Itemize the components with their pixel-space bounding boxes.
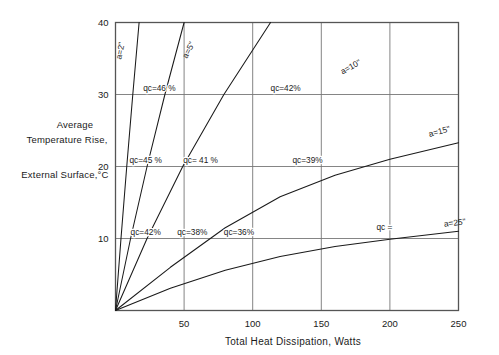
y-axis-label-line-2: Temperature Rise, [14,134,120,145]
x-tick-label-100: 100 [245,318,261,329]
x-tick-label-150: 150 [313,318,329,329]
curve-label-group-4: a=25" [443,216,466,229]
x-axis-title: Total Heat Dissipation, Watts [225,336,361,347]
y-tick-label-30: 30 [98,89,109,100]
annotation-qc-38: qᴄ=38% [177,227,208,237]
x-tick-label-50: 50 [179,318,190,329]
curve-label-a25: a=25" [443,216,466,229]
annotation-qc-45: qᴄ=45 % [129,155,162,165]
y-axis-label-line-1: Average [30,119,120,130]
chart-root: a=2"a=5"a=10"a=15"a=25"qᴄ=42%qᴄ=42%qᴄ=38… [0,0,499,355]
annotation-qc-36: qᴄ=36% [224,227,255,237]
annotation-qc-blank: qᴄ = [376,222,392,232]
annotation-qc-41: qᴄ= 41 % [183,155,218,165]
y-axis-label-line-3: External Surface,°C [10,169,120,180]
y-tick-label-10: 10 [98,233,109,244]
annotation-qc-39: qᴄ=39% [292,155,323,165]
annotation-qc-42-upper: qᴄ=42% [271,83,302,93]
y-tick-label-40: 40 [98,17,109,28]
x-tick-label-250: 250 [451,318,467,329]
annotation-qc-42-lower: qᴄ=42% [131,227,162,237]
annotation-qc-46: qᴄ=46 % [143,83,176,93]
x-tick-label-200: 200 [382,318,398,329]
